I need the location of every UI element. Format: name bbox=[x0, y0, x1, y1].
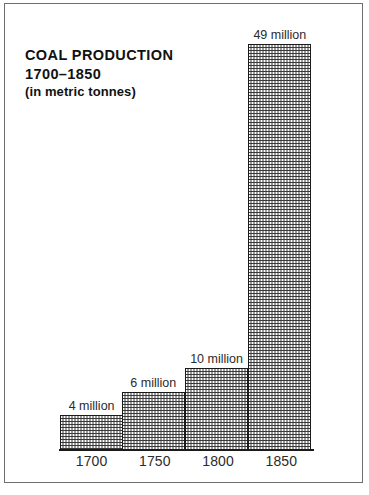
x-axis-label-1850: 1850 bbox=[250, 453, 313, 469]
bar-1850: 49 million bbox=[248, 44, 311, 450]
x-axis-labels: 1700 1750 1800 1850 bbox=[60, 453, 313, 469]
bar-slot-1700: 4 million bbox=[60, 20, 123, 450]
bar-value-1800: 10 million bbox=[188, 352, 245, 366]
bar-slot-1850: 49 million bbox=[250, 20, 313, 450]
x-axis-label-1800: 1800 bbox=[187, 453, 250, 469]
bar-value-1700: 4 million bbox=[67, 399, 117, 413]
bar-1700: 4 million bbox=[60, 415, 123, 450]
bar-value-1850: 49 million bbox=[251, 28, 308, 42]
bar-series: 4 million 6 million 10 million 49 millio… bbox=[60, 20, 313, 450]
bar-1800: 10 million bbox=[185, 368, 248, 450]
coal-production-figure: COAL PRODUCTION 1700–1850 (in metric ton… bbox=[0, 0, 369, 495]
x-axis-label-1700: 1700 bbox=[60, 453, 123, 469]
bar-slot-1800: 10 million bbox=[187, 20, 250, 450]
x-axis-label-1750: 1750 bbox=[123, 453, 186, 469]
bar-1750: 6 million bbox=[122, 392, 185, 450]
bar-value-1750: 6 million bbox=[128, 376, 178, 390]
bar-slot-1750: 6 million bbox=[123, 20, 186, 450]
x-axis-baseline bbox=[59, 449, 314, 451]
